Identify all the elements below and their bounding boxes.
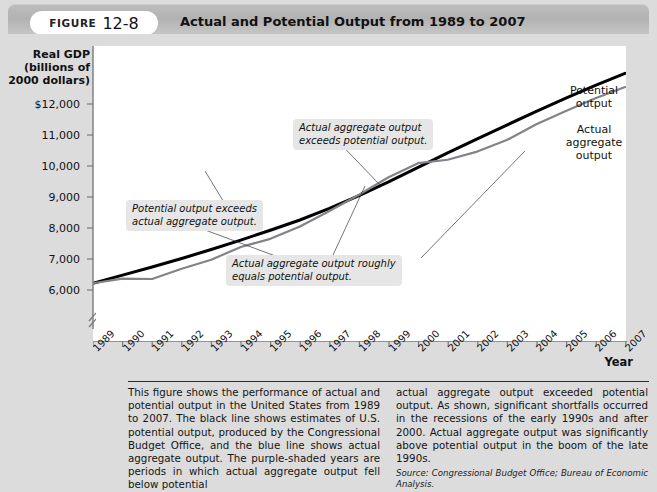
y-tick-label-11000: 11,000 (8, 129, 80, 142)
figure-label: FIGURE (49, 17, 96, 29)
annotation-potential-exceeds-actual: Potential output exceeds actual aggregat… (126, 200, 263, 231)
figure-number-pill: FIGURE 12-8 (30, 11, 158, 35)
annotation-actual-exceeds-potential-line2: exceeds potential output. (299, 135, 427, 148)
y-tick-label-7000: 7,000 (8, 253, 80, 266)
figure-number: 12-8 (102, 14, 138, 33)
leader-line-equals-mid (333, 186, 365, 255)
actual-output-label-line3: output (554, 149, 634, 162)
y-tick-label-12000: $12,000 (8, 98, 80, 111)
y-axis-title-line2: (billions of (8, 61, 90, 74)
y-axis-title-line3: 2000 dollars) (8, 74, 90, 87)
y-tick-label-8000: 8,000 (8, 222, 80, 235)
chart-region: Real GDP (billions of 2000 dollars) $12,… (8, 34, 649, 370)
caption-column-left: This figure shows the performance of act… (128, 386, 380, 474)
annotation-actual-equals-potential-line2: equals potential output. (232, 271, 396, 284)
x-axis-title: Year (604, 355, 633, 369)
y-axis-title-line1: Real GDP (8, 48, 90, 61)
chart-plot-svg (93, 46, 626, 341)
caption-source: Source: Congressional Budget Office; Bur… (396, 468, 648, 490)
annotation-actual-exceeds-potential-line1: Actual aggregate output (299, 122, 427, 135)
potential-output-label: Potential output (554, 84, 634, 110)
figure-header-band: FIGURE 12-8 Actual and Potential Output … (8, 4, 649, 35)
y-tick-label-10000: 10,000 (8, 160, 80, 173)
caption-column-right: actual aggregate output exceeded potenti… (396, 386, 648, 474)
potential-output-line (93, 73, 625, 283)
annotation-potential-exceeds-actual-line1: Potential output exceeds (132, 203, 257, 216)
plot-area (93, 46, 626, 341)
y-tick-label-9000: 9,000 (8, 191, 80, 204)
x-tick-label-2007: 2007 (623, 328, 649, 354)
y-tick-label-6000: 6,000 (8, 284, 80, 297)
actual-output-label-line2: aggregate (554, 136, 634, 149)
leader-line-equals-right (421, 151, 525, 258)
actual-aggregate-output-label: Actual aggregate output (554, 123, 634, 162)
actual-aggregate-output-line (93, 87, 625, 283)
potential-output-label-line2: output (554, 97, 634, 110)
annotation-actual-exceeds-potential: Actual aggregate output exceeds potentia… (293, 119, 433, 150)
potential-output-line-group (93, 73, 625, 283)
annotation-actual-equals-potential-line1: Actual aggregate output roughly (232, 258, 396, 271)
actual-output-label-line1: Actual (554, 123, 634, 136)
y-axis-ticks (80, 46, 96, 351)
figure-caption: This figure shows the performance of act… (128, 386, 651, 474)
potential-output-label-line1: Potential (554, 84, 634, 97)
caption-divider (128, 381, 649, 382)
y-axis-title: Real GDP (billions of 2000 dollars) (8, 48, 90, 87)
annotation-potential-exceeds-actual-line2: actual aggregate output. (132, 216, 257, 229)
annotation-actual-equals-potential: Actual aggregate output roughly equals p… (226, 255, 402, 286)
actual-output-line-group (93, 87, 625, 283)
figure-title: Actual and Potential Output from 1989 to… (180, 14, 525, 29)
caption-right-text: actual aggregate output exceeded potenti… (396, 386, 648, 464)
